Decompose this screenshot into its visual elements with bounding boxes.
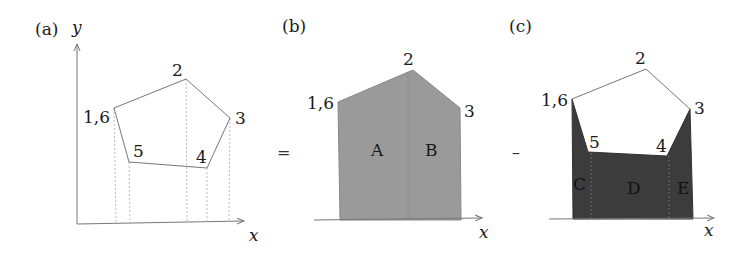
polygon-outline [114,79,230,168]
vertex-4-label: 4 [196,147,207,167]
x-axis-label: x [479,222,489,242]
region-c-label: C [573,174,586,194]
vertex-3-label: 3 [464,101,475,121]
minus-operator: – [512,143,520,162]
panel-a-label: (a) [35,19,58,39]
panel-c: (c) x 1,6 2 3 4 5 C D E [509,16,714,240]
x-axis-label: x [704,220,714,240]
y-axis-label: y [71,17,82,37]
panel-a: (a) y x 1,6 2 3 4 5 [35,17,259,245]
x-axis-label: x [249,225,259,245]
area-under-lower-chain [572,99,693,219]
polygon-area-diagram: (a) y x 1,6 2 3 4 5 = (b) x 1,6 2 3 A B … [0,0,752,253]
panel-c-label: (c) [509,16,532,36]
x-axis [77,221,244,224]
vertex-3-label: 3 [235,108,246,128]
vertex-4-label: 4 [656,136,667,156]
region-e-label: E [677,178,689,198]
vertex-2-label: 2 [635,48,646,68]
equals-operator: = [277,143,290,162]
vertex-2-label: 2 [403,49,414,69]
vertex-5-label: 5 [589,132,600,152]
region-b-label: B [425,140,438,160]
vertex-1-6-label: 1,6 [541,90,568,110]
upper-chain-outline [572,69,690,109]
vertex-3-label: 3 [694,98,705,118]
vertex-1-6-label: 1,6 [83,107,110,127]
vertex-2-label: 2 [172,60,183,80]
vertex-1-6-label: 1,6 [307,93,334,113]
region-a-label: A [370,140,384,160]
panel-b-label: (b) [282,16,306,36]
area-under-upper-chain [338,70,461,220]
vertex-5-label: 5 [133,141,144,161]
panel-b: (b) x 1,6 2 3 A B [282,16,489,242]
region-d-label: D [627,178,641,198]
